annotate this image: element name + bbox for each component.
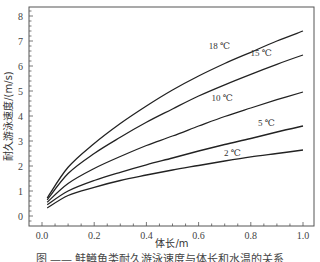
plot-frame: [29, 7, 314, 226]
series-label: 10 ℃: [211, 93, 232, 103]
plot-border: [29, 7, 314, 226]
x-axis-label: 体长/m: [155, 238, 188, 249]
figure-caption: 图 —— 鲑鳟鱼类耐久游泳速度与体长和水温的关系: [0, 252, 320, 262]
series-label: 2 ℃: [224, 148, 241, 158]
y-tick-label: 0: [18, 211, 23, 222]
series-label: 15 ℃: [251, 48, 272, 58]
x-tick-label: 0.6: [192, 230, 205, 241]
series-line: [47, 92, 303, 202]
y-tick-label: 1: [18, 186, 23, 197]
y-tick-label: 3: [18, 136, 23, 147]
y-tick-label: 6: [18, 61, 23, 72]
series-label: 18 ℃: [209, 41, 230, 51]
x-tick-label: 0.8: [245, 230, 258, 241]
x-tick-label: 0.4: [140, 230, 153, 241]
line-chart: 0.00.20.40.60.81.0012345678 18 ℃15 ℃10 ℃…: [0, 0, 320, 262]
y-tick-label: 2: [18, 161, 23, 172]
y-tick-label: 4: [18, 111, 23, 122]
y-tick-label: 5: [18, 86, 23, 97]
series-label: 5 ℃: [258, 118, 275, 128]
y-axis-label: 耐久游泳速度/(m/s): [2, 71, 14, 161]
x-tick-label: 0.2: [88, 230, 101, 241]
y-tick-label: 8: [18, 11, 23, 22]
y-tick-label: 7: [18, 36, 23, 47]
x-tick-label: 1.0: [297, 230, 310, 241]
x-tick-label: 0.0: [36, 230, 49, 241]
series-line: [47, 126, 303, 205]
